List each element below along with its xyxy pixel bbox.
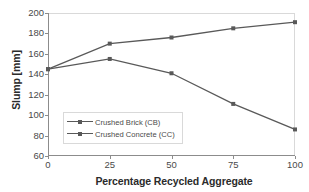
x-tick-label: 50	[152, 159, 192, 170]
legend-item-crushed-concrete: Crushed Concrete (CC)	[67, 128, 178, 140]
data-point-marker	[46, 67, 50, 71]
y-tick-label: 80	[4, 130, 44, 141]
legend: Crushed Brick (CB) Crushed Concrete (CC)	[63, 112, 183, 144]
data-point-marker	[170, 71, 174, 75]
x-tick-mark	[295, 156, 296, 159]
y-tick-label: 120	[4, 89, 44, 100]
legend-line-icon	[67, 129, 93, 139]
x-axis-title: Percentage Recycled Aggregate	[45, 175, 303, 187]
data-point-marker	[108, 57, 112, 61]
x-tick-mark	[233, 156, 234, 159]
data-point-marker	[293, 127, 297, 131]
data-point-marker	[170, 36, 174, 40]
x-tick-label: 0	[28, 159, 68, 170]
data-point-marker	[293, 20, 297, 24]
data-point-marker	[231, 26, 235, 30]
y-tick-label: 200	[4, 7, 44, 18]
x-tick-mark	[172, 156, 173, 159]
plot-area: 6080100120140160180200 0255075100 Crushe…	[48, 13, 295, 156]
y-tick-label: 180	[4, 27, 44, 38]
y-tick-label: 100	[4, 109, 44, 120]
x-tick-mark	[110, 156, 111, 159]
chart-container: Slump [mm] 6080100120140160180200 025507…	[0, 0, 309, 192]
legend-line-icon	[67, 117, 93, 127]
y-tick-label: 160	[4, 48, 44, 59]
data-point-marker	[231, 102, 235, 106]
x-tick-label: 100	[275, 159, 309, 170]
data-point-marker	[108, 42, 112, 46]
legend-label: Crushed Brick (CB)	[93, 118, 160, 127]
legend-item-crushed-brick: Crushed Brick (CB)	[67, 116, 178, 128]
y-tick-label: 140	[4, 68, 44, 79]
x-tick-mark	[48, 156, 49, 159]
x-tick-label: 25	[90, 159, 130, 170]
legend-label: Crushed Concrete (CC)	[93, 130, 175, 139]
x-tick-label: 75	[213, 159, 253, 170]
series-line	[48, 22, 295, 69]
